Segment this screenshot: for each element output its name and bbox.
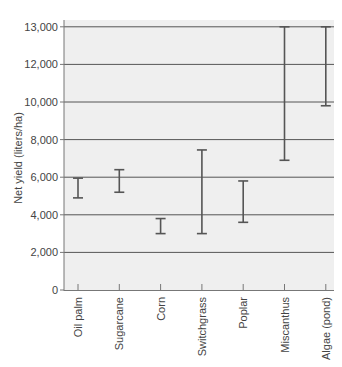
x-axis-ticks: Oil palmSugarcaneCornSwitchgrassPoplarMi… [72, 284, 332, 360]
y-axis-ticks: 02,0004,0006,0008,00010,00012,00013,000 [24, 21, 64, 296]
x-category-label: Miscanthus [279, 297, 291, 353]
y-tick-label: 13,000 [24, 21, 58, 33]
x-category-label: Oil palm [72, 297, 84, 337]
y-tick-label: 0 [52, 284, 58, 296]
chart: 02,0004,0006,0008,00010,00012,00013,000 … [0, 0, 342, 367]
y-tick-label: 10,000 [24, 96, 58, 108]
y-tick-label: 12,000 [24, 58, 58, 70]
y-tick-label: 4,000 [30, 209, 58, 221]
y-axis-label: Net yield (liters/ha) [12, 112, 24, 204]
y-tick-label: 2,000 [30, 246, 58, 258]
plot-area [64, 20, 334, 291]
x-category-label: Corn [155, 297, 167, 321]
x-category-label: Poplar [237, 297, 249, 329]
x-category-label: Sugarcane [113, 297, 125, 350]
y-tick-label: 8,000 [30, 134, 58, 146]
x-category-label: Switchgrass [196, 297, 208, 357]
x-category-label: Algae (pond) [320, 297, 332, 360]
y-tick-label: 6,000 [30, 171, 58, 183]
